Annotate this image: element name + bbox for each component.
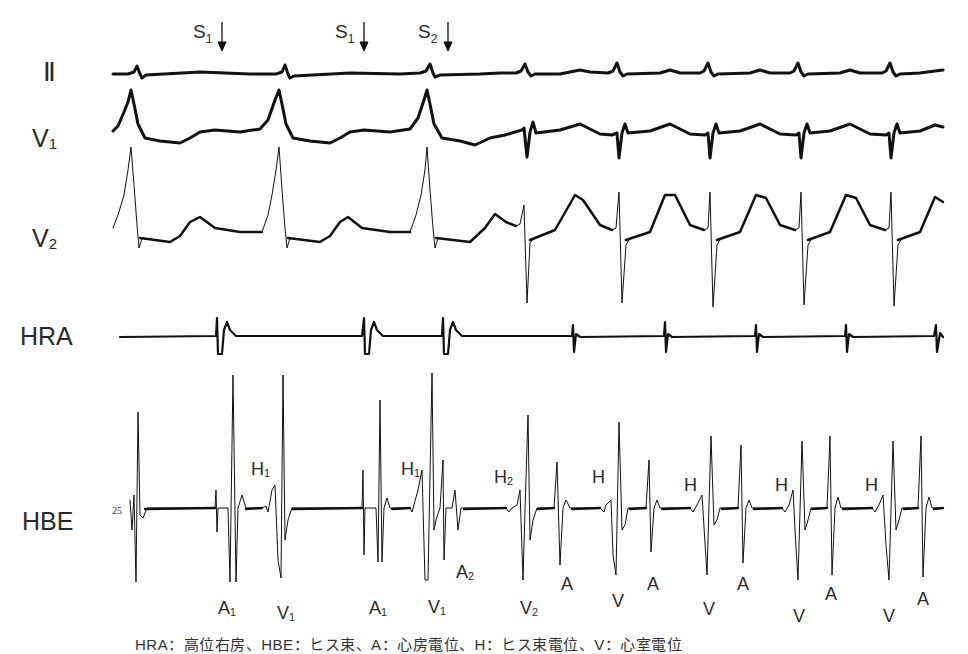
lead-label-II: Ⅱ [43, 60, 56, 86]
annotation-text: H [251, 459, 264, 479]
stimulus-label-sub: 2 [431, 32, 438, 46]
annotation-text: H [401, 459, 414, 479]
annotation-text: A [737, 574, 749, 594]
annotation-text: A [456, 562, 468, 582]
annotation-text: V [428, 597, 440, 617]
annotation-sub: 2 [468, 570, 474, 582]
lead-label-II-text: Ⅱ [43, 58, 56, 87]
annotation-sub: 2 [507, 475, 513, 487]
annotation-A: A [561, 575, 573, 593]
lead-label-HRA-text: HRA [20, 322, 73, 350]
annotation-A: A [825, 585, 837, 603]
annotation-A: A [917, 590, 929, 608]
annotation-A: A [737, 575, 749, 593]
annotation-sub: 1 [264, 467, 270, 479]
trace-lead-II [113, 63, 943, 78]
annotation-text: A [218, 598, 230, 618]
lead-label-V2: V2 [32, 226, 57, 251]
annotation-A1: A1 [218, 599, 236, 617]
annotation-text: H [865, 475, 878, 495]
annotation-A: A [647, 575, 659, 593]
annotation-text: V [793, 606, 805, 626]
annotation-text: H [775, 475, 788, 495]
annotation-text: A [825, 584, 837, 604]
annotation-sub: 1 [414, 467, 420, 479]
lead-label-V2-sub: 2 [49, 235, 57, 252]
annotation-sub: 1 [230, 606, 236, 618]
stimulus-label-sub: 1 [206, 32, 213, 46]
annotation-text: H [494, 467, 507, 487]
annotation-V: V [793, 607, 805, 625]
annotation-sub: 1 [440, 605, 446, 617]
annotation-text: V [703, 599, 715, 619]
annotation-V1: V1 [277, 604, 295, 622]
annotation-text: A [561, 574, 573, 594]
lead-label-V1-text: V [32, 124, 49, 152]
calibration-mark: 25 [112, 505, 122, 516]
annotation-H1: H1 [251, 460, 270, 478]
annotation-sub: 2 [532, 606, 538, 618]
trace-HBE-baseline [145, 508, 943, 509]
annotation-text: H [592, 467, 605, 487]
stimulus-label-S1-first: S1 [193, 22, 212, 45]
stimulus-label-text: S [335, 21, 348, 42]
annotation-H: H [592, 468, 605, 486]
lead-label-HBE: HBE [22, 509, 73, 534]
trace-HRA [120, 318, 943, 354]
annotation-text: V [520, 598, 532, 618]
annotation-V: V [703, 600, 715, 618]
annotation-H: H [684, 476, 697, 494]
lead-label-HBE-text: HBE [22, 507, 73, 535]
stimulus-label-S2: S2 [418, 22, 437, 45]
annotation-V: V [883, 607, 895, 625]
annotation-A1: A1 [369, 599, 387, 617]
annotation-V: V [612, 592, 624, 610]
lead-label-V2-text: V [32, 224, 49, 252]
annotation-text: H [684, 475, 697, 495]
stimulus-label-sub: 1 [348, 32, 355, 46]
trace-lead-V2 [113, 147, 943, 307]
annotation-H1: H1 [401, 460, 420, 478]
annotation-text: V [883, 606, 895, 626]
trace-lead-V2-thick [140, 195, 943, 242]
annotation-text: A [369, 598, 381, 618]
annotation-text: V [277, 603, 289, 623]
annotation-V1: V1 [428, 598, 446, 616]
stimulus-label-text: S [193, 21, 206, 42]
annotation-A2: A2 [456, 563, 474, 581]
stimulus-label-text: S [418, 21, 431, 42]
annotation-V2: V2 [520, 599, 538, 617]
annotation-H2: H2 [494, 468, 513, 486]
annotation-text: A [647, 574, 659, 594]
lead-label-HRA: HRA [20, 324, 73, 349]
annotation-sub: 1 [289, 611, 295, 623]
annotation-H: H [865, 476, 878, 494]
trace-lead-V1 [113, 90, 943, 158]
stimulus-label-S1-second: S1 [335, 22, 354, 45]
annotation-H: H [775, 476, 788, 494]
annotation-text: A [917, 589, 929, 609]
lead-label-V1-sub: 1 [49, 135, 57, 152]
figure-caption: HRA：高位右房、HBE：ヒス束、A：心房電位、H：ヒス束電位、V：心室電位 [135, 633, 682, 654]
lead-label-V1: V1 [32, 126, 57, 151]
annotation-text: V [612, 591, 624, 611]
annotation-sub: 1 [381, 606, 387, 618]
